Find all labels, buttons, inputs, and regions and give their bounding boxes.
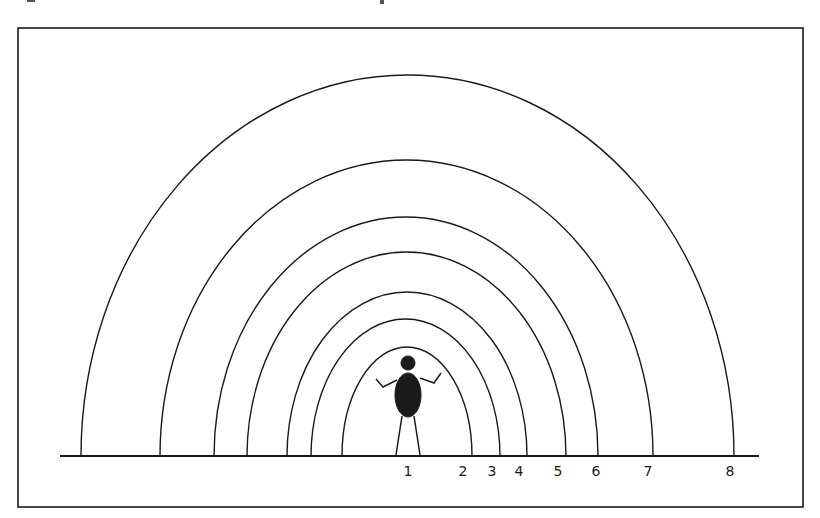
frame-border — [18, 28, 803, 507]
cropped-caption-remnant — [27, 0, 384, 4]
person-left-arm — [376, 379, 397, 387]
zones-diagram — [0, 0, 820, 518]
person-left-leg — [396, 416, 402, 455]
person-body — [395, 373, 421, 417]
zone-label-5: 5 — [554, 463, 563, 479]
person-figure — [376, 356, 441, 455]
zone-label-4: 4 — [515, 463, 524, 479]
zone-label-6: 6 — [592, 463, 601, 479]
zone-label-2: 2 — [459, 463, 468, 479]
zone-label-1: 1 — [404, 463, 413, 479]
person-right-arm — [420, 373, 441, 383]
person-head — [401, 356, 415, 370]
zone-label-8: 8 — [726, 463, 735, 479]
zone-arc-5 — [247, 252, 566, 456]
zone-label-3: 3 — [488, 463, 497, 479]
zone-label-7: 7 — [644, 463, 653, 479]
person-right-leg — [414, 416, 420, 455]
zone-arc-6 — [214, 217, 598, 456]
